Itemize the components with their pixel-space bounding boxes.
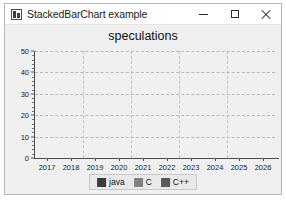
title-bar: StackedBarChart example: [5, 4, 281, 25]
x-axis-tick: [143, 158, 144, 161]
x-axis-label: 2017: [39, 163, 56, 172]
bar-series-group: 2017201820192020202120222023202420252026: [35, 51, 275, 158]
y-axis-label: 10: [21, 132, 29, 141]
close-button[interactable]: [250, 4, 281, 24]
y-axis-minor-tick: [32, 102, 34, 103]
y-axis-minor-tick: [32, 85, 34, 86]
legend-label: C: [146, 177, 152, 187]
x-axis-label: 2019: [87, 163, 104, 172]
x-axis-tick: [47, 158, 48, 161]
bar-group[interactable]: 2023: [179, 51, 203, 158]
x-axis-label: 2022: [159, 163, 176, 172]
y-axis-minor-tick: [32, 128, 34, 129]
y-axis-minor-tick: [32, 81, 34, 82]
y-axis-minor-tick: [32, 68, 34, 69]
x-axis-tick: [167, 158, 168, 161]
y-axis-minor-tick: [32, 98, 34, 99]
y-axis-minor-tick: [32, 145, 34, 146]
x-axis-tick: [95, 158, 96, 161]
y-axis-label: 0: [25, 154, 29, 163]
bar-group[interactable]: 2024: [203, 51, 227, 158]
x-axis-tick: [239, 158, 240, 161]
app-chart-icon: [11, 9, 22, 20]
close-icon: [260, 9, 271, 20]
legend-item-cpp[interactable]: C++: [161, 177, 189, 187]
x-axis-tick: [191, 158, 192, 161]
y-axis-minor-tick: [32, 132, 34, 133]
x-axis-label: 2020: [111, 163, 128, 172]
x-axis-label: 2026: [255, 163, 272, 172]
y-axis-label: 40: [21, 68, 29, 77]
chart-legend: javaCC++: [89, 174, 197, 190]
x-axis-label: 2025: [231, 163, 248, 172]
y-axis-minor-tick: [32, 107, 34, 108]
y-axis-minor-tick: [32, 141, 34, 142]
x-axis-label: 2021: [135, 163, 152, 172]
legend-label: java: [109, 177, 125, 187]
y-axis-tick: [31, 72, 34, 73]
y-axis-tick: [31, 93, 34, 94]
legend-swatch: [97, 178, 106, 187]
y-axis-minor-tick: [32, 60, 34, 61]
bar-group[interactable]: 2021: [131, 51, 155, 158]
maximize-icon: [231, 10, 239, 18]
legend-swatch: [161, 178, 170, 187]
y-axis-label: 50: [21, 47, 29, 56]
y-axis-minor-tick: [32, 111, 34, 112]
legend-swatch: [134, 178, 143, 187]
minimize-button[interactable]: [188, 4, 219, 24]
legend-item-c[interactable]: C: [134, 177, 152, 187]
bar-group[interactable]: 2026: [251, 51, 275, 158]
legend-item-java[interactable]: java: [97, 177, 125, 187]
maximize-button[interactable]: [219, 4, 250, 24]
y-axis-tick: [31, 51, 34, 52]
y-axis-label: 30: [21, 89, 29, 98]
x-axis-tick: [263, 158, 264, 161]
bar-group[interactable]: 2018: [59, 51, 83, 158]
y-axis-minor-tick: [32, 149, 34, 150]
bar-group[interactable]: 2025: [227, 51, 251, 158]
chart-canvas: speculations 01020304050 201720182019202…: [5, 25, 281, 194]
window-title: StackedBarChart example: [27, 8, 147, 20]
y-axis-tick: [31, 158, 34, 159]
bar-group[interactable]: 2022: [155, 51, 179, 158]
chart-title: speculations: [5, 29, 281, 43]
legend-label: C++: [173, 177, 189, 187]
window-controls: [188, 4, 281, 24]
x-axis-tick: [119, 158, 120, 161]
bar-group[interactable]: 2020: [107, 51, 131, 158]
plot-area: 01020304050 2017201820192020202120222023…: [35, 51, 275, 158]
y-axis-minor-tick: [32, 64, 34, 65]
y-axis-minor-tick: [32, 124, 34, 125]
x-axis-label: 2018: [63, 163, 80, 172]
y-axis-minor-tick: [32, 90, 34, 91]
y-axis-tick: [31, 115, 34, 116]
y-axis-minor-tick: [32, 77, 34, 78]
y-axis-minor-tick: [32, 119, 34, 120]
y-axis-minor-tick: [32, 55, 34, 56]
x-axis-tick: [71, 158, 72, 161]
x-axis-tick: [215, 158, 216, 161]
y-axis-minor-tick: [32, 154, 34, 155]
minimize-icon: [199, 14, 208, 15]
y-axis-tick: [31, 136, 34, 137]
application-window: StackedBarChart example speculations 010…: [4, 3, 282, 195]
x-axis-label: 2024: [207, 163, 224, 172]
bar-group[interactable]: 2017: [35, 51, 59, 158]
bar-group[interactable]: 2019: [83, 51, 107, 158]
x-axis-label: 2023: [183, 163, 200, 172]
y-axis-label: 20: [21, 111, 29, 120]
